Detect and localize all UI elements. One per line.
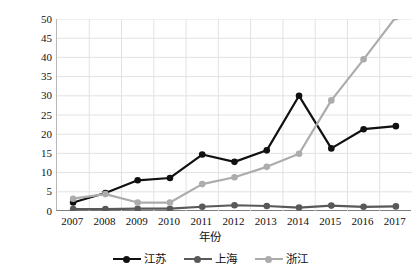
y-tick-label: 20 [26,129,52,140]
data-point[interactable] [360,56,367,63]
data-point[interactable] [360,203,367,210]
plot-area [56,19,411,211]
y-tick-label: 10 [26,167,52,178]
y-tick-label: 30 [26,90,52,101]
y-tick-label: 40 [26,52,52,63]
legend-item-江苏[interactable]: 江苏 [113,253,166,265]
data-point[interactable] [167,199,174,206]
x-tick-label: 2017 [372,214,418,228]
legend-label: 浙江 [286,253,308,265]
data-point[interactable] [134,177,141,184]
data-point[interactable] [393,203,400,210]
series-江苏 [70,93,399,206]
y-axis-tick-labels: 05101520253035404550 [26,12,52,212]
data-point[interactable] [70,195,77,202]
data-point[interactable] [231,202,238,209]
y-tick-label: 0 [26,206,52,217]
y-tick-label: 15 [26,148,52,159]
data-point[interactable] [199,203,206,210]
legend-marker-icon [255,254,283,264]
y-tick-label: 35 [26,71,52,82]
data-point[interactable] [263,147,270,154]
data-point[interactable] [296,150,303,157]
data-point[interactable] [134,205,141,211]
data-point[interactable] [296,93,303,100]
data-point[interactable] [70,206,77,211]
legend-item-上海[interactable]: 上海 [184,253,237,265]
gridlines [57,19,412,211]
legend-marker-icon [113,254,141,264]
data-point[interactable] [263,203,270,210]
y-tick-label: 25 [26,110,52,121]
data-point[interactable] [102,206,109,211]
legend-label: 上海 [215,253,237,265]
y-tick-label: 50 [26,14,52,25]
data-point[interactable] [134,199,141,206]
data-point[interactable] [393,123,400,130]
series-上海 [70,202,399,211]
data-point[interactable] [263,164,270,171]
legend-label: 江苏 [144,253,166,265]
x-axis-title: 年份 [0,230,420,244]
data-point[interactable] [231,159,238,166]
data-point[interactable] [360,126,367,133]
data-point[interactable] [199,181,206,188]
series-浙江 [70,19,399,206]
chart-legend: 江苏上海浙江 [0,249,420,269]
line-chart: 增殖放流数量/亿单位 05101520253035404550 20072008… [0,0,420,273]
data-point[interactable] [328,97,335,104]
data-point[interactable] [328,145,335,152]
x-axis-tick-labels: 2007200820092010201120122013201420152016… [56,214,411,230]
data-point[interactable] [199,151,206,158]
legend-item-浙江[interactable]: 浙江 [255,253,308,265]
data-point[interactable] [296,204,303,211]
data-point[interactable] [102,191,109,198]
y-tick-label: 45 [26,33,52,44]
data-point[interactable] [167,175,174,182]
legend-marker-icon [184,254,212,264]
plot-svg [57,19,412,211]
data-point[interactable] [328,202,335,209]
data-point[interactable] [231,174,238,181]
data-point[interactable] [167,205,174,211]
y-tick-label: 5 [26,186,52,197]
